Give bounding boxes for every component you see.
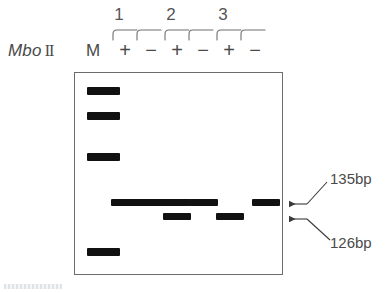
enzyme-label: MboII <box>8 41 53 61</box>
lane-header-1-minus: − <box>140 41 162 60</box>
leader-line-135bp <box>307 182 327 204</box>
marker-band-1 <box>87 87 120 95</box>
group-number-1: 1 <box>99 5 139 25</box>
leader-line-126bp <box>307 219 330 240</box>
band-lane-1-minus-upper <box>137 199 165 206</box>
lane-header-3-minus: − <box>244 41 266 60</box>
marker-band-4 <box>87 248 120 256</box>
label-135bp: 135bp <box>330 170 372 187</box>
group-number-3: 3 <box>203 5 243 25</box>
lane-header-2-minus: − <box>192 41 214 60</box>
lane-header-1-plus: + <box>114 41 136 60</box>
band-lane-1-plus-upper <box>111 199 139 206</box>
lane-header-2-plus: + <box>166 41 188 60</box>
label-126bp: 126bp <box>330 234 372 251</box>
gel-box <box>74 72 283 275</box>
group-number-2: 2 <box>151 5 191 25</box>
band-lane-2-plus-lower <box>163 213 191 220</box>
enzyme-numeral-text: II <box>45 42 54 59</box>
band-lane-2-plus-upper <box>163 199 191 206</box>
marker-band-3 <box>87 153 120 161</box>
band-lane-3-plus-lower <box>216 213 244 220</box>
marker-band-2 <box>87 112 120 120</box>
lane-header-marker: M <box>82 41 104 60</box>
band-lane-3-minus-upper <box>252 199 280 206</box>
gel-figure: 1 2 3 MboII M + − + − + − <box>0 0 391 293</box>
enzyme-name-text: Mbo <box>8 41 42 60</box>
watermark <box>4 284 62 289</box>
lane-header-3-plus: + <box>218 41 240 60</box>
band-lane-2-minus-upper <box>190 199 218 206</box>
